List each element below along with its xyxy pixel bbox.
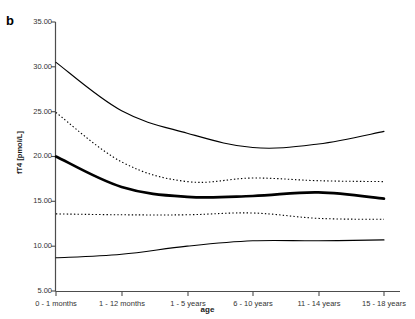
series-line-2 (56, 157, 384, 199)
axes (51, 22, 400, 296)
x-axis-ticks (56, 292, 384, 297)
series-line-4 (56, 240, 384, 258)
series-line-1 (56, 113, 384, 183)
series-line-0 (56, 62, 384, 148)
plot-area (0, 0, 415, 319)
series-line-3 (56, 213, 384, 219)
chart-panel: b fT4 [pmol/L] age 35.00 30.00 25.00 20.… (0, 0, 415, 319)
series-layer (56, 62, 384, 257)
